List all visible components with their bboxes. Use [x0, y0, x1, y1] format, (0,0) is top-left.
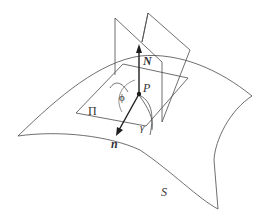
label-tangent-plane: Π	[88, 104, 97, 118]
label-normal-vector: N	[142, 54, 153, 68]
label-curve-gamma: γ	[140, 121, 145, 133]
normal-arrowhead-icon	[136, 44, 142, 53]
diagram-canvas: N P ϕ Π γ n S	[0, 0, 266, 220]
surface-s	[18, 55, 252, 209]
label-surface-s: S	[161, 185, 167, 199]
label-angle-phi: ϕ	[119, 91, 125, 103]
label-direction-vector: n	[111, 137, 118, 151]
direction-arrowhead-icon	[116, 127, 123, 136]
surface-diagram: N P ϕ Π γ n S	[0, 0, 266, 220]
point-p-marker	[137, 92, 141, 96]
label-point-p: P	[142, 81, 151, 95]
